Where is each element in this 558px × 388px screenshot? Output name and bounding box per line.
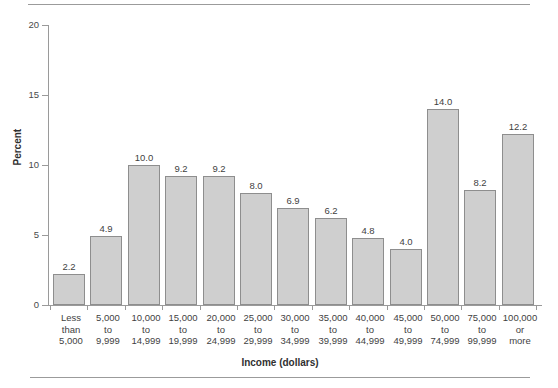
bar (427, 109, 459, 305)
bar (53, 274, 85, 305)
bar (128, 165, 160, 305)
x-axis-tick (424, 305, 425, 310)
y-axis-title: Percent (12, 140, 23, 166)
bar (165, 176, 197, 305)
bottom-divider-rule (30, 377, 530, 378)
x-axis-tick (312, 305, 313, 310)
bar-value-label: 8.2 (458, 177, 502, 188)
bar-value-label: 4.8 (346, 225, 390, 236)
bar-value-label: 4.0 (384, 236, 428, 247)
bar (277, 208, 309, 305)
bar-value-label: 9.2 (197, 163, 241, 174)
bar (240, 193, 272, 305)
y-axis-tick-label: 0 (13, 300, 39, 310)
y-axis-tick (42, 95, 48, 96)
bar (502, 134, 534, 305)
x-axis-tick (349, 305, 350, 310)
x-axis-tick (125, 305, 126, 310)
chart-page: 05101520 2.24.910.09.29.28.06.96.24.84.0… (0, 0, 558, 388)
x-axis-tick (274, 305, 275, 310)
bar-value-label: 6.2 (309, 205, 353, 216)
bar (390, 249, 422, 305)
x-axis-tick (162, 305, 163, 310)
x-axis-tick (536, 305, 537, 310)
x-axis-category-label: 100,000 or more (495, 312, 545, 347)
y-axis-tick (42, 25, 48, 26)
bar-value-label: 12.2 (496, 121, 540, 132)
bar (352, 238, 384, 305)
y-axis-tick (42, 235, 48, 236)
x-axis-title-text: Income (dollars) (241, 357, 318, 368)
y-axis-tick-label: 20 (13, 20, 39, 30)
x-axis-line (48, 305, 542, 306)
bar-value-label: 8.0 (234, 180, 278, 191)
bar-value-label: 10.0 (122, 152, 166, 163)
x-axis-tick (387, 305, 388, 310)
x-axis-tick (237, 305, 238, 310)
y-axis-tick (42, 165, 48, 166)
bar (464, 190, 496, 305)
y-axis-tick (42, 305, 48, 306)
x-axis-tick (461, 305, 462, 310)
x-axis-tick (50, 305, 51, 310)
bar (203, 176, 235, 305)
x-axis-tick (87, 305, 88, 310)
x-axis-tick (499, 305, 500, 310)
bar-value-label: 2.2 (47, 261, 91, 272)
y-axis-tick-label: 15 (13, 90, 39, 100)
x-axis-tick (200, 305, 201, 310)
x-axis-title: Income (dollars) (0, 357, 558, 368)
bar (315, 218, 347, 305)
bar (90, 236, 122, 305)
bar-value-label: 14.0 (421, 96, 465, 107)
y-axis-tick-label: 5 (13, 230, 39, 240)
bar-value-label: 4.9 (84, 223, 128, 234)
bar-chart: 05101520 2.24.910.09.29.28.06.96.24.84.0… (0, 0, 558, 388)
